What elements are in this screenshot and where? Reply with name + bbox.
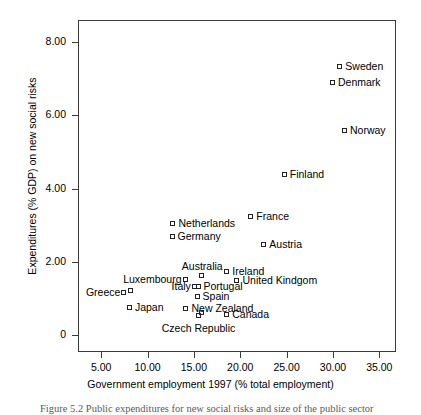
data-point-label: Japan — [135, 302, 164, 313]
x-tick-mark — [194, 352, 195, 358]
y-tick-mark — [72, 42, 78, 43]
x-tick-mark — [287, 352, 288, 358]
data-point-label: Greece — [86, 287, 120, 298]
x-tick-mark — [379, 352, 380, 358]
data-point-label: Netherlands — [178, 218, 235, 229]
data-point-marker[interactable] — [183, 306, 188, 311]
data-point-marker[interactable] — [342, 128, 347, 133]
figure-caption: Figure 5.2 Public expenditures for new s… — [40, 403, 400, 414]
data-point-label: Austria — [269, 239, 302, 250]
y-tick-label: 6.00 — [10, 108, 66, 120]
y-tick-mark — [72, 189, 78, 190]
data-point-label: Australia — [182, 261, 223, 272]
figure-page: 5.0010.0015.0020.0025.0030.0035.00 8.006… — [0, 0, 421, 415]
x-tick-label: 35.00 — [349, 361, 409, 373]
data-point-marker[interactable] — [192, 284, 197, 289]
data-point-label: Sweden — [345, 61, 383, 72]
data-point-marker[interactable] — [127, 305, 132, 310]
data-point-label: France — [256, 211, 289, 222]
data-point-marker[interactable] — [248, 214, 253, 219]
data-point-label: Finland — [290, 169, 324, 180]
x-tick-mark — [148, 352, 149, 358]
data-point-marker[interactable] — [330, 80, 335, 85]
y-axis-title: Expenditures (% GDP) on new social risks — [26, 51, 38, 301]
y-tick-label: 4.00 — [10, 182, 66, 194]
y-tick-mark — [72, 335, 78, 336]
y-tick-label: 2.00 — [10, 255, 66, 267]
data-point-marker[interactable] — [170, 221, 175, 226]
x-tick-mark — [101, 352, 102, 358]
x-tick-mark — [240, 352, 241, 358]
data-point-marker[interactable] — [199, 310, 204, 315]
y-tick-mark — [72, 262, 78, 263]
data-point-marker[interactable] — [195, 294, 200, 299]
data-point-marker[interactable] — [224, 269, 229, 274]
data-point-label: Canada — [232, 309, 269, 320]
data-point-label: Denmark — [338, 77, 381, 88]
data-point-marker[interactable] — [199, 273, 204, 278]
data-point-marker[interactable] — [282, 172, 287, 177]
y-tick-label: 0 — [10, 328, 66, 340]
data-point-marker[interactable] — [224, 312, 229, 317]
data-point-label: Czech Republic — [162, 323, 236, 334]
x-axis-title: Government employment 1997 (% total empl… — [0, 378, 421, 390]
data-point-label: Germany — [178, 231, 221, 242]
data-point-label: United Kindgom — [242, 275, 317, 286]
data-point-marker[interactable] — [128, 288, 133, 293]
data-point-marker[interactable] — [121, 290, 126, 295]
data-point-label: Italy — [172, 281, 191, 292]
data-point-marker[interactable] — [170, 234, 175, 239]
y-tick-mark — [72, 115, 78, 116]
data-point-label: Norway — [350, 125, 386, 136]
x-tick-mark — [333, 352, 334, 358]
data-point-label: Spain — [203, 291, 230, 302]
y-tick-label: 8.00 — [10, 35, 66, 47]
data-point-marker[interactable] — [261, 242, 266, 247]
data-point-marker[interactable] — [337, 64, 342, 69]
